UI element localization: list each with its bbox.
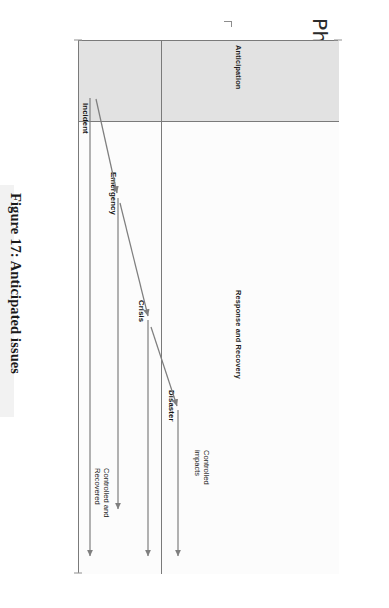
arrow-crisis-to-disaster (151, 327, 177, 406)
arrow-overlay (0, 0, 389, 608)
document-page: Phases: Anticipated Issues Figure 17: An… (0, 0, 389, 608)
escalation-arrows (96, 99, 177, 406)
arrow-incident-to-emergency (96, 99, 117, 193)
frame-corner-ticks (74, 40, 342, 573)
arrow-emergency-to-crisis (120, 203, 148, 316)
timeline-arrows (90, 98, 178, 556)
